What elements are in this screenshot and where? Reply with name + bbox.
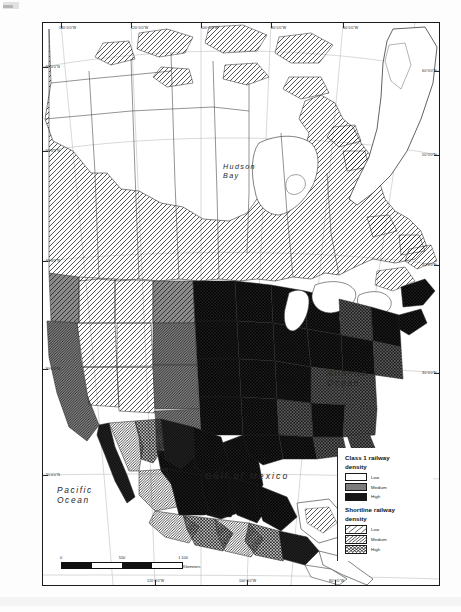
legend-item-shortline-medium: Medium [345, 535, 429, 544]
scale-seg-1 [62, 563, 92, 568]
label-pacific-ocean: Pacific Ocean [57, 485, 93, 506]
legend-shortline-title: Shortline railway density [345, 506, 429, 524]
scale-seg-2 [92, 563, 122, 568]
swatch-class1-low [345, 473, 367, 482]
swatch-shortline-low [345, 525, 367, 534]
scale-label-mid: 550 [119, 555, 126, 560]
canada-region [45, 25, 427, 281]
tickmark-top-2 [131, 23, 132, 28]
tickmark-right-2 [434, 155, 439, 156]
tickmark-top-5 [343, 23, 344, 28]
tickmark-left-1 [43, 67, 48, 68]
label-gulf-of-mexico: Gulf of Mexico [205, 471, 289, 481]
legend-label-shortline-medium: Medium [371, 537, 387, 542]
tickmark-right-4 [434, 373, 439, 374]
tick-bottom-3: 80°0'0"W [329, 579, 344, 583]
scale-bar: 0 550 1 100 Kilometers [61, 555, 183, 569]
label-atlantic-ocean: Atlantic Ocean [327, 368, 367, 389]
legend-label-shortline-high: High [371, 547, 380, 552]
scale-seg-3 [122, 563, 152, 568]
swatch-shortline-medium [345, 535, 367, 544]
legend-item-class1-high: High [345, 493, 429, 502]
tickmark-right-3 [434, 265, 439, 266]
scale-label-max: 1 100 [178, 555, 188, 560]
tick-top-2: 120°0'0"W [131, 26, 148, 30]
swatch-class1-high [345, 493, 367, 502]
tickmark-top-4 [271, 23, 272, 28]
scale-bar-graphic: Kilometers [61, 562, 183, 569]
tickmark-left-2 [43, 151, 48, 152]
legend-item-class1-low: Low [345, 473, 429, 482]
swatch-class1-medium [345, 483, 367, 492]
legend-label-class1-high: High [371, 494, 380, 499]
tick-top-5: 60°0'0"W [343, 26, 358, 30]
legend-label-class1-medium: Medium [371, 485, 387, 490]
map-legend: Class 1 railway density Low Medium High … [337, 448, 433, 561]
tickmark-bottom-2 [247, 580, 248, 585]
legend-class1-title: Class 1 railway density [345, 454, 429, 472]
tick-top-4: 80°0'0"W [271, 26, 286, 30]
tickmark-bottom-1 [155, 580, 156, 585]
label-hudson-bay: Hudson Bay [223, 163, 256, 181]
scale-bar-labels: 0 550 1 100 [61, 555, 183, 562]
legend-item-shortline-low: Low [345, 525, 429, 534]
tickmark-top-1 [61, 23, 62, 28]
tickmark-left-4 [43, 369, 48, 370]
legend-label-shortline-low: Low [371, 527, 379, 532]
tickmark-bottom-3 [335, 580, 336, 585]
tickmark-left-5 [43, 475, 48, 476]
tickmark-right-1 [434, 71, 439, 72]
scale-bar-units: Kilometers [183, 565, 200, 569]
scale-seg-4 [152, 563, 182, 568]
map-figure: Hudson Bay Atlantic Ocean Pacific Ocean … [0, 0, 461, 612]
map-plot: Hudson Bay Atlantic Ocean Pacific Ocean … [43, 23, 439, 585]
scan-band [0, 597, 461, 606]
scan-artifact-2 [3, 5, 13, 8]
swatch-shortline-high [345, 545, 367, 554]
legend-item-shortline-high: High [345, 545, 429, 554]
scale-label-0: 0 [60, 555, 62, 560]
map-frame: Hudson Bay Atlantic Ocean Pacific Ocean … [42, 22, 440, 586]
tickmark-left-3 [43, 261, 48, 262]
tickmark-top-3 [201, 23, 202, 28]
tick-top-3: 100°0'0"W [201, 26, 218, 30]
legend-label-class1-low: Low [371, 475, 379, 480]
legend-item-class1-medium: Medium [345, 483, 429, 492]
